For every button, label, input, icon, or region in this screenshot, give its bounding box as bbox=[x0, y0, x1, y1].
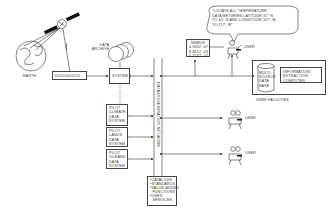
pilot-lands-label: PILOT LANDS DATA SYSTEM bbox=[107, 128, 127, 147]
pilot-lands-box[interactable]: PILOT LANDS DATA SYSTEM bbox=[106, 127, 128, 147]
user-label-3: USER bbox=[245, 151, 256, 155]
earth-label: EARTH bbox=[23, 74, 36, 78]
system1-box[interactable]: SYSTEM 1 bbox=[109, 68, 130, 84]
pilot-oceans-label: PILOT OCEANS DATA SYSTEM bbox=[107, 150, 127, 169]
extraction-computer-box[interactable]: INFORMATION EXTRACTION COMPUTER bbox=[280, 67, 322, 83]
result-label: NNMUS 4.9432 -07 8.8612 -03 5.7732 -02 bbox=[187, 40, 209, 59]
user-icon bbox=[229, 147, 242, 165]
data-archive-icon bbox=[109, 43, 134, 62]
user-icon bbox=[228, 41, 241, 60]
earth-icon bbox=[16, 41, 46, 71]
user-facilities-label: USER FACILITIES bbox=[256, 98, 289, 102]
user-icon bbox=[229, 111, 242, 129]
data-archive-label: DATA ARCHIVE bbox=[92, 43, 109, 52]
system1-label: SYSTEM 1 bbox=[110, 69, 129, 83]
satellite-icon bbox=[44, 12, 80, 34]
database-label: MULTI- SOURCE DATA BASE bbox=[259, 71, 276, 88]
data-stream-label: 011010010111 bbox=[53, 72, 86, 79]
extraction-computer-label: INFORMATION EXTRACTION COMPUTER bbox=[281, 68, 321, 85]
network-label: DATA DISSEMINATION NETWORK bbox=[156, 82, 160, 147]
query-bubble-text: "LOCATE ALL TEMPERATURE DATA BETWEEN LAT… bbox=[212, 9, 276, 27]
user-label-2: USER bbox=[245, 116, 256, 120]
services-box[interactable]: •CATALOGS •STANDARDS •VALUE-ADDED FUNCTI… bbox=[147, 176, 177, 206]
pilot-climate-label: PILOT CLIMATE DATA SYSTEM bbox=[107, 105, 127, 124]
data-stream-box: 011010010111 bbox=[52, 71, 87, 80]
services-label: •CATALOGS •STANDARDS •VALUE-ADDED FUNCTI… bbox=[148, 177, 176, 204]
pilot-oceans-box[interactable]: PILOT OCEANS DATA SYSTEM bbox=[106, 149, 128, 169]
result-box: NNMUS 4.9432 -07 8.8612 -03 5.7732 -02 bbox=[186, 39, 210, 57]
pilot-climate-box[interactable]: PILOT CLIMATE DATA SYSTEM bbox=[106, 104, 128, 126]
user-label-1: USER bbox=[244, 45, 255, 49]
